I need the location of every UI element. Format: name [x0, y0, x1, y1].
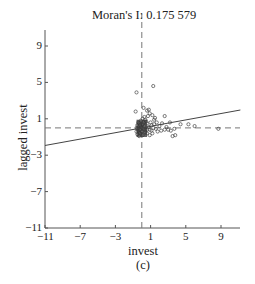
figure-caption: (c)	[136, 258, 150, 273]
y-tick-label: 9	[20, 39, 42, 51]
regression-line	[45, 110, 240, 145]
y-tick-label: −3	[20, 148, 42, 160]
x-axis-label-text: invest	[128, 244, 158, 258]
chart-title: Moran's I: 0.175 579	[92, 8, 196, 23]
data-points	[134, 84, 220, 137]
x-tick-label: −7	[72, 230, 88, 242]
y-tick-label: 1	[20, 112, 42, 124]
y-tick-label: −7	[20, 185, 42, 197]
x-tick-label: 9	[213, 230, 229, 242]
x-tick-label: 5	[178, 230, 194, 242]
y-axis-label: lagged invest	[16, 93, 31, 183]
x-tick-label: −3	[107, 230, 123, 242]
x-tick-label: 1	[143, 230, 159, 242]
x-axis-label: invest	[0, 244, 255, 259]
y-tick-label: 5	[20, 75, 42, 87]
y-tick-label: −11	[20, 221, 42, 233]
